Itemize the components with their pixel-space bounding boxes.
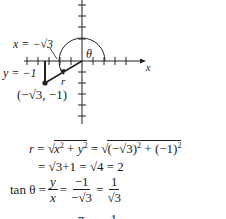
point-label: (−√3, −1) — [17, 88, 67, 101]
equation-r-result: = √3+1 = √4 = 2 — [38, 160, 124, 173]
point-marker — [42, 80, 47, 85]
equation-tan-theta: tan θ = yx = −1−√3 = 1√3 — [10, 175, 125, 204]
x-equals-label: x = −√3 — [13, 38, 53, 50]
coordinate-plane — [0, 0, 226, 130]
equation-r: r = √x2 + y2 = √(−√3)2 + (−1)2 — [29, 140, 181, 155]
theta-label: θ — [86, 48, 92, 60]
fraction-1-over-sqrt3: 1√3 — [105, 175, 123, 204]
y-equals-label: y = −1 — [3, 67, 37, 79]
x-axis-label: x — [146, 63, 150, 73]
equation-theta-partial: π 1 — [78, 212, 117, 219]
fraction-y-over-x: yx — [48, 175, 58, 204]
fraction-neg1-over-negsqrt3: −1−√3 — [69, 175, 94, 204]
r-label: r — [61, 76, 65, 87]
